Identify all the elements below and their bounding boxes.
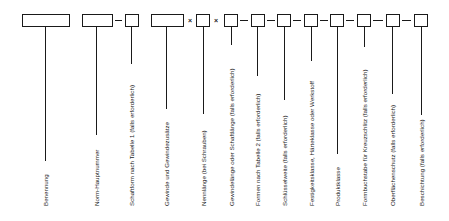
label-beschichtung: Beschichtung (falls erforderlich) <box>418 119 425 206</box>
label-schluesselweite: Schlüsselweite (falls erforderlich) <box>281 116 288 206</box>
label-schaftform: Schaftform nach Tabelle 1 (falls erforde… <box>128 85 135 206</box>
leader-line-benennung <box>45 27 46 161</box>
field-box-nennlaenge <box>196 14 210 27</box>
field-box-norm-hauptnummer <box>82 14 113 27</box>
times-separator: × <box>188 17 192 24</box>
field-box-produktklasse <box>330 14 344 27</box>
dash-connector <box>293 20 301 21</box>
dash-connector <box>320 20 328 21</box>
label-formen: Formen nach Tabelle 2 (falls erforderlic… <box>254 94 261 206</box>
dash-connector <box>115 20 122 21</box>
times-separator: × <box>214 17 218 24</box>
field-box-beschichtung <box>414 14 428 27</box>
leader-line-formen <box>257 27 258 76</box>
field-box-schaftform <box>125 14 139 27</box>
label-oberflaechenschutz: Oberflächenschutz (falls erforderlich) <box>389 105 396 206</box>
field-box-gewindelaenge <box>224 14 238 27</box>
leader-line-formbuchstabe <box>364 27 365 47</box>
field-box-oberflaechenschutz <box>386 14 400 27</box>
dash-connector <box>240 20 248 21</box>
label-formbuchstabe: Formbuchstabe für Kreuzschlitz (falls er… <box>361 69 368 206</box>
label-gewinde: Gewinde und Gewindezusätze <box>163 122 170 206</box>
label-produktklasse: Produktklasse <box>334 167 341 206</box>
leader-line-norm-hauptnummer <box>96 27 97 135</box>
leader-line-schluesselweite <box>284 27 285 100</box>
leader-line-beschichtung <box>421 27 422 115</box>
leader-line-nennlaenge <box>203 27 204 114</box>
dash-connector <box>402 20 411 21</box>
dash-connector <box>373 20 383 21</box>
label-benennung: Benennung <box>42 174 49 206</box>
label-norm-hauptnummer: Norm-Hauptnummer <box>93 150 100 206</box>
field-box-formbuchstabe <box>357 14 371 27</box>
field-box-formen <box>251 14 265 27</box>
leader-line-gewindelaenge <box>231 27 232 45</box>
field-box-schluesselweite <box>277 14 291 27</box>
field-box-benennung <box>22 14 70 27</box>
leader-line-schaftform <box>131 27 132 64</box>
field-box-gewinde <box>151 14 184 27</box>
dash-connector <box>267 20 275 21</box>
label-gewindelaenge: Gewindelänge oder Schaftlänge (falls erf… <box>228 68 235 206</box>
dash-connector <box>346 20 354 21</box>
field-box-festigkeitsklasse <box>304 14 318 27</box>
leader-line-gewinde <box>166 27 167 109</box>
leader-line-oberflaechenschutz <box>392 27 393 94</box>
leader-line-festigkeitsklasse <box>311 27 312 61</box>
leader-line-produktklasse <box>337 27 338 154</box>
label-festigkeitsklasse: Festigkeitsklasse, Härteklasse oder Werk… <box>308 81 315 206</box>
label-nennlaenge: Nennlänge (bei Schrauben) <box>200 130 207 206</box>
